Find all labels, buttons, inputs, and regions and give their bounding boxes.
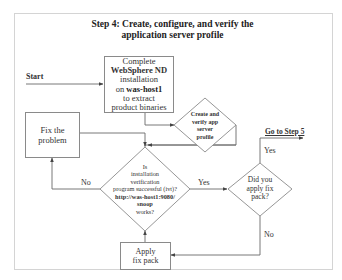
apply-line-1: Apply <box>136 247 156 257</box>
complete-installation-box: Complete WebSphere ND installation on wa… <box>104 56 174 113</box>
edge-label-yes-right: Yes <box>198 178 210 187</box>
host-name: was-host1 <box>126 84 162 94</box>
create-verify-profile-diamond: Create and verify app server profile <box>180 109 230 143</box>
edge-label-no-down: No <box>264 230 274 239</box>
fixpack-line-3: pack? <box>251 193 269 202</box>
go-to-step-5-link[interactable]: Go to Step 5 <box>265 127 304 136</box>
verify-line-3: verification <box>130 178 159 185</box>
create-line-1: Create and <box>191 111 219 119</box>
snoop-url: http://was-host1:9080/ <box>115 193 175 200</box>
verify-line-6: snoop <box>137 200 153 207</box>
fix-problem-box: Fix the problem <box>25 112 80 158</box>
edge-label-no-left: No <box>81 178 91 187</box>
verify-line-1: Is <box>143 163 148 170</box>
fix-pack-applied-diamond: Did you apply fix pack? <box>236 174 284 204</box>
apply-line-2: fix pack <box>133 256 159 266</box>
create-line-3: server <box>197 126 213 134</box>
fix-line-2: problem <box>38 135 66 145</box>
start-label: Start <box>26 72 43 81</box>
apply-fix-pack-box: Apply fix pack <box>120 242 171 270</box>
verify-line-7: works? <box>136 208 154 215</box>
verification-diamond: Is installation verification program suc… <box>98 160 192 218</box>
create-line-2: verify app <box>192 119 218 127</box>
verify-line-2: installation <box>131 170 159 177</box>
complete-line-4-prefix: on <box>116 84 127 94</box>
fix-line-1: Fix the <box>41 125 65 135</box>
create-line-4: profile <box>197 134 214 142</box>
complete-line-6: product binaries <box>112 103 167 112</box>
edge-label-yes-up: Yes <box>264 146 276 155</box>
verify-line-4: program successful (ivt)? <box>113 185 177 192</box>
